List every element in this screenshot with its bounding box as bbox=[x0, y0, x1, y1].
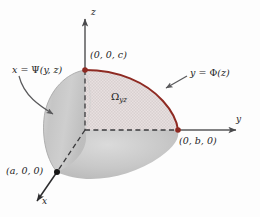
figure-canvas bbox=[0, 0, 260, 217]
point-label-b: (0, b, 0) bbox=[179, 136, 217, 146]
point-marker-c bbox=[82, 67, 88, 73]
omega-subscript: yz bbox=[119, 95, 127, 104]
psi-args: (y, z) bbox=[40, 64, 63, 75]
axis-label-z: z bbox=[91, 8, 96, 17]
phi-prefix: y = bbox=[190, 67, 209, 78]
axis-label-x: x bbox=[42, 197, 47, 206]
math-figure-3d-region: z y x (0, 0, c) (0, b, 0) (a, 0, 0) x = … bbox=[0, 0, 260, 217]
point-marker-b bbox=[175, 127, 181, 133]
point-label-a: (a, 0, 0) bbox=[6, 166, 43, 176]
point-label-c: (0, 0, c) bbox=[90, 50, 127, 60]
curve-equation-phi: y = Φ(z) bbox=[190, 68, 230, 78]
phi-symbol: Φ bbox=[209, 67, 217, 78]
phi-args: (z) bbox=[217, 67, 229, 78]
psi-symbol: Ψ bbox=[31, 64, 39, 75]
point-marker-a bbox=[54, 169, 60, 175]
region-label-omega: Ωyz bbox=[111, 92, 127, 103]
leader-phi bbox=[166, 76, 187, 88]
axis-label-y: y bbox=[236, 115, 241, 124]
psi-prefix: x = bbox=[12, 64, 31, 75]
surface-equation-psi: x = Ψ(y, z) bbox=[12, 65, 62, 75]
